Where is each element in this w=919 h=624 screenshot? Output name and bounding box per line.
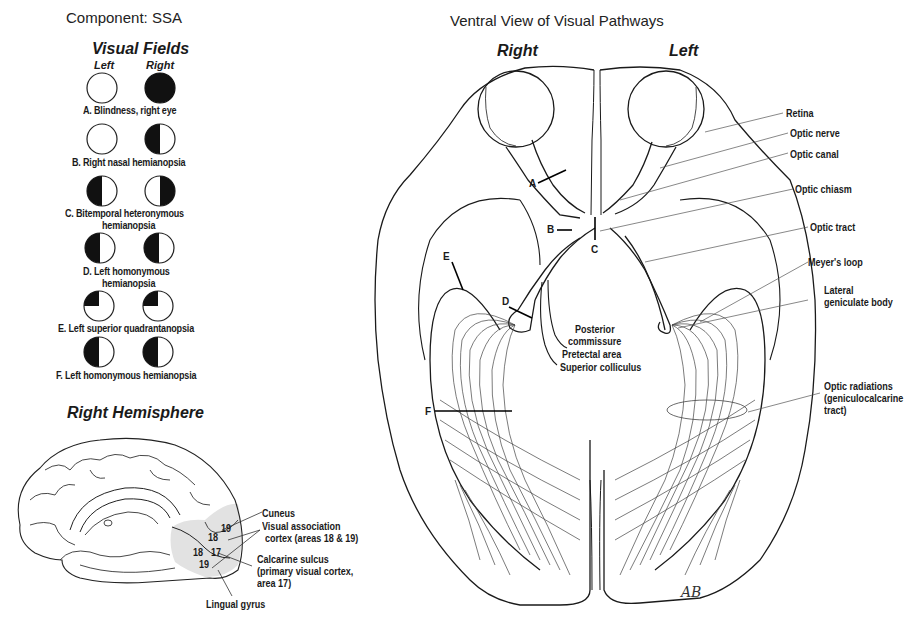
label-retina: Retina	[786, 107, 814, 119]
label-pretectal-area: Pretectal area	[562, 348, 621, 360]
label-superior-colliculus: Superior colliculus	[560, 361, 641, 373]
field-caption-F: F. Left homonymous hemianopsia	[56, 369, 196, 381]
label-cuneus: Cuneus	[262, 507, 295, 519]
field-caption-C-line2: hemianopsia	[102, 219, 155, 231]
field-A-left-eye	[87, 73, 117, 103]
side-label-right: Right	[497, 42, 538, 60]
diagram-title: Ventral View of Visual Pathways	[450, 12, 664, 29]
label-visual-association-1: Visual association	[262, 520, 341, 532]
lesion-marker-B: B	[547, 224, 554, 235]
label-optic-nerve: Optic nerve	[790, 127, 840, 139]
lesion-marker-C: C	[591, 244, 598, 255]
area-number-19-lower: 19	[199, 558, 209, 570]
field-D-left-eye	[85, 233, 115, 263]
area-number-17: 17	[211, 546, 221, 558]
lesion-D-line	[509, 307, 532, 318]
field-B-left-eye	[87, 124, 117, 154]
side-label-left: Left	[669, 42, 698, 60]
hemisphere-heading: Right Hemisphere	[67, 404, 204, 422]
label-optic-tract: Optic tract	[810, 221, 855, 233]
label-calcarine-2: (primary visual cortex,	[257, 565, 353, 577]
label-radiations-2: (geniculocalcarine	[824, 392, 903, 404]
lesion-A-line	[538, 170, 566, 183]
field-E-right-eye	[143, 291, 173, 321]
field-caption-E: E. Left superior quadrantanopsia	[58, 322, 194, 334]
field-caption-D-line1: D. Left homonymous	[83, 265, 170, 277]
label-calcarine-3: area 17)	[257, 577, 291, 589]
label-visual-association-2: cortex (areas 18 & 19)	[265, 532, 358, 544]
field-C-right-eye	[145, 176, 175, 206]
label-radiations-3: tract)	[824, 404, 847, 416]
field-E-left-eye	[84, 291, 114, 321]
field-C-left-eye	[87, 176, 117, 206]
lesion-E-line	[452, 262, 463, 290]
field-F-right-eye	[143, 337, 173, 367]
field-D-right-eye	[144, 233, 174, 263]
artist-signature: AB	[681, 584, 701, 600]
area-number-18-upper: 18	[208, 531, 218, 543]
label-calcarine-1: Calcarine sulcus	[257, 553, 329, 565]
area-number-18-lower: 18	[193, 546, 203, 558]
label-lgb-1: Lateral	[824, 284, 854, 296]
label-optic-chiasm: Optic chiasm	[795, 183, 852, 195]
lesion-marker-A: A	[529, 178, 536, 189]
field-B-right-eye	[145, 124, 175, 154]
label-meyers-loop: Meyer's loop	[808, 256, 863, 268]
lesion-marker-D: D	[502, 296, 509, 307]
label-optic-canal: Optic canal	[790, 148, 839, 160]
label-radiations-1: Optic radiations	[824, 380, 893, 392]
field-caption-A: A. Blindness, right eye	[83, 104, 176, 116]
lesion-marker-F: F	[425, 406, 431, 417]
label-lingual-gyrus: Lingual gyrus	[206, 598, 265, 610]
field-A-right-eye	[145, 73, 175, 103]
field-caption-C-line1: C. Bitemporal heteronymous	[65, 207, 184, 219]
label-posterior-commissure-2: commissure	[568, 335, 621, 347]
visual-fields-panel: Visual Fields Left Right A. Blindness, r…	[0, 0, 260, 390]
field-caption-D-line2: hemianopsia	[102, 277, 155, 289]
area-number-19-upper: 19	[221, 522, 231, 534]
lesion-marker-E: E	[443, 251, 450, 262]
field-caption-B: B. Right nasal hemianopsia	[72, 156, 185, 168]
label-posterior-commissure-1: Posterior	[575, 323, 615, 335]
field-F-left-eye	[84, 337, 114, 367]
label-lgb-2: geniculate body	[824, 296, 893, 308]
